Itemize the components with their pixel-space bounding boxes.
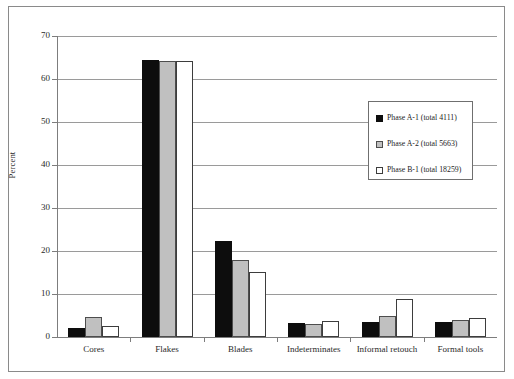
x-axis-tick-mark: [130, 337, 131, 342]
legend-item-label: Phase A-1 (total 4111): [387, 114, 457, 122]
legend-item[interactable]: Phase B-1 (total 18259): [376, 164, 461, 176]
y-axis-tick-label-text: 30: [20, 203, 50, 212]
legend-item[interactable]: Phase A-1 (total 4111): [376, 112, 457, 124]
white-square-icon: [376, 167, 383, 174]
bar-group: [435, 36, 486, 337]
y-axis-tick-label-text: 0: [20, 332, 50, 341]
bar: [232, 260, 249, 337]
bar: [176, 61, 193, 337]
bar: [396, 299, 413, 337]
y-axis-tick-label: 40: [12, 160, 50, 170]
bar: [85, 317, 102, 337]
bar-group: [288, 36, 339, 337]
x-axis-tick-mark: [424, 337, 425, 342]
y-axis-tick-label: 10: [12, 289, 50, 299]
bar: [249, 272, 266, 337]
y-axis-tick-label: 20: [12, 246, 50, 256]
x-axis-category-label: Formal tools: [424, 345, 497, 355]
chart-legend: Phase A-1 (total 4111)Phase A-2 (total 5…: [368, 101, 473, 180]
legend-item-label: Phase A-2 (total 5663): [387, 140, 457, 148]
legend-item-label: Phase B-1 (total 18259): [387, 166, 461, 174]
bar: [68, 328, 85, 337]
bar-group: [215, 36, 266, 337]
y-axis-tick-label-text: 40: [20, 160, 50, 169]
bar: [362, 322, 379, 337]
y-axis-tick-label: 50: [12, 117, 50, 127]
bar: [215, 241, 232, 337]
x-axis-category-label: Flakes: [130, 345, 203, 355]
plot-area: [57, 36, 497, 337]
chart-figure: Percent 010203040506070 CoresFlakesBlade…: [0, 0, 514, 379]
bar: [305, 324, 322, 337]
bar-group: [362, 36, 413, 337]
bar: [379, 316, 396, 337]
bar: [469, 318, 486, 337]
y-axis-tick-label-text: 20: [20, 246, 50, 255]
x-axis-category-label: Cores: [57, 345, 130, 355]
bar: [452, 320, 469, 337]
bar: [142, 60, 159, 337]
bar: [102, 326, 119, 337]
bar: [288, 323, 305, 337]
x-axis-tick-mark: [350, 337, 351, 342]
y-axis-tick-label: 70: [12, 31, 50, 41]
legend-item[interactable]: Phase A-2 (total 5663): [376, 138, 457, 150]
bar: [435, 322, 452, 337]
x-axis-category-label: Blades: [204, 345, 277, 355]
x-axis-category-label: Informal retouch: [350, 345, 423, 355]
y-axis-tick-label-text: 70: [20, 31, 50, 40]
bar-group: [142, 36, 193, 337]
bar-group: [68, 36, 119, 337]
x-axis-tick-mark: [277, 337, 278, 342]
gray-square-icon: [376, 141, 383, 148]
x-axis-category-label: Indeterminates: [277, 345, 350, 355]
y-axis-tick-label-text: 60: [20, 74, 50, 83]
y-axis-tick-label-text: 50: [20, 117, 50, 126]
y-axis-tick-label: 60: [12, 74, 50, 84]
x-axis-tick-mark: [204, 337, 205, 342]
bar: [322, 321, 339, 337]
y-axis-tick-label: 30: [12, 203, 50, 213]
y-axis-tick-label-text: 10: [20, 289, 50, 298]
y-axis-tick-label: 0: [12, 332, 50, 342]
black-square-icon: [376, 115, 383, 122]
bar: [159, 61, 176, 337]
